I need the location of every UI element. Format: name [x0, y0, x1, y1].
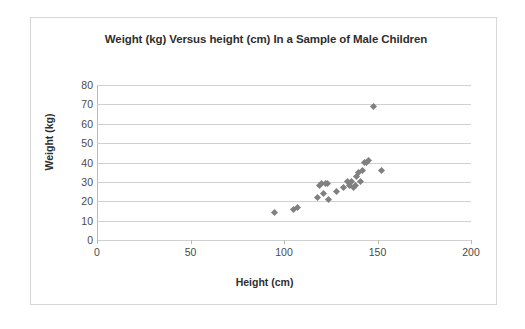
y-tick-label: 10	[69, 216, 93, 226]
gridline-y	[97, 124, 471, 125]
x-tick-label: 50	[171, 246, 211, 258]
gridline-y	[97, 143, 471, 144]
plot-area	[97, 85, 471, 240]
x-tick-label: 150	[358, 246, 398, 258]
data-point	[320, 190, 327, 197]
x-axis-tick-labels: 050100150200	[31, 246, 498, 262]
x-axis-tick	[191, 240, 192, 244]
chart-title: Weight (kg) Versus height (cm) In a Samp…	[71, 31, 461, 48]
x-tick-label: 200	[451, 246, 491, 258]
gridline-y	[97, 85, 471, 86]
gridline-y	[97, 201, 471, 202]
y-tick-label: 80	[69, 80, 93, 90]
y-tick-label: 60	[69, 119, 93, 129]
gridline-y	[97, 221, 471, 222]
y-axis-title: Weight (kg)	[43, 92, 55, 192]
x-tick-label: 0	[77, 246, 117, 258]
data-point	[378, 167, 385, 174]
x-axis-title: Height (cm)	[31, 276, 498, 288]
y-tick-label: 50	[69, 138, 93, 148]
gridline-y	[97, 163, 471, 164]
y-tick-label: 0	[69, 235, 93, 245]
x-axis-tick	[97, 240, 98, 244]
data-point	[271, 209, 278, 216]
chart-frame: Weight (kg) Versus height (cm) In a Samp…	[30, 17, 497, 305]
x-axis-tick	[378, 240, 379, 244]
y-tick-label: 30	[69, 177, 93, 187]
x-axis-tick	[471, 240, 472, 244]
y-tick-label: 40	[69, 158, 93, 168]
y-tick-label: 70	[69, 99, 93, 109]
gridline-y	[97, 104, 471, 105]
x-tick-label: 100	[264, 246, 304, 258]
x-axis-tick	[284, 240, 285, 244]
data-point	[314, 194, 321, 201]
data-point	[333, 188, 340, 195]
gridline-y	[97, 182, 471, 183]
y-axis-tick-labels: 01020304050607080	[63, 18, 93, 306]
y-tick-label: 20	[69, 196, 93, 206]
